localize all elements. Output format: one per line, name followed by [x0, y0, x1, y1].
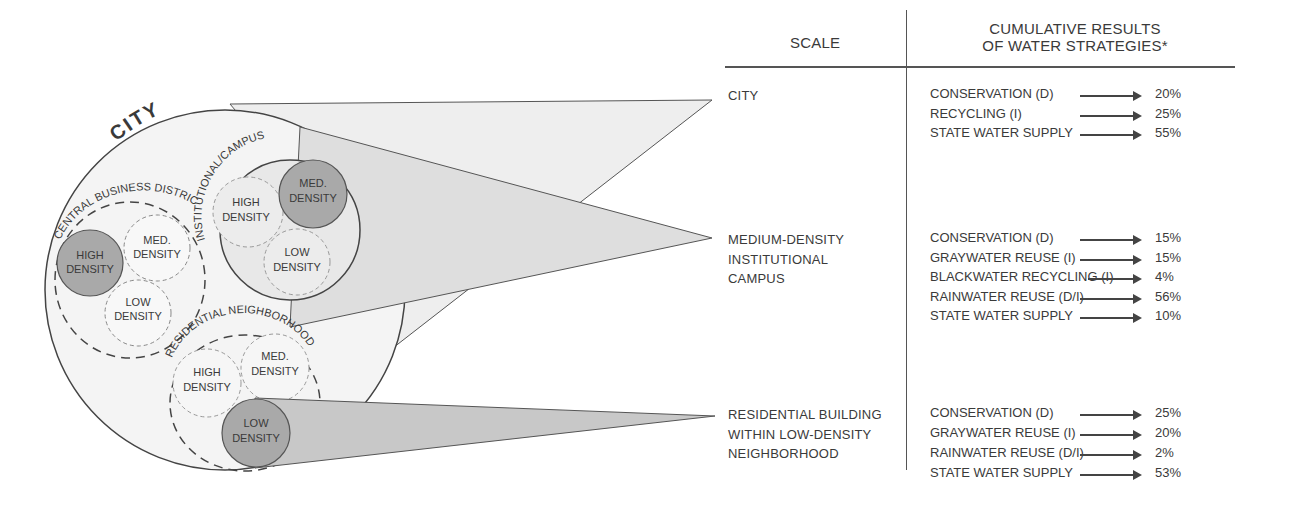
svg-text:DENSITY: DENSITY: [66, 263, 114, 275]
strategy-value: 4%: [1155, 269, 1174, 284]
strategy-name: CONSERVATION (D): [930, 86, 1054, 101]
results-header-line2: OF WATER STRATEGIES*: [970, 37, 1180, 54]
strategy-row: GRAYWATER REUSE (I) 20%: [930, 425, 1260, 445]
strategy-row: BLACKWATER RECYCLING (I) 4%: [930, 269, 1260, 289]
scale-label-residential: RESIDENTIAL BUILDING WITHIN LOW-DENSITY …: [728, 405, 882, 464]
svg-text:LOW: LOW: [243, 417, 269, 429]
strategy-row: RAINWATER REUSE (D/I) 2%: [930, 445, 1260, 465]
svg-text:DENSITY: DENSITY: [232, 432, 280, 444]
strategy-value: 55%: [1155, 125, 1181, 140]
strategy-row: STATE WATER SUPPLY 53%: [930, 465, 1260, 485]
svg-text:MED.: MED.: [143, 234, 171, 246]
strategy-value: 25%: [1155, 405, 1181, 420]
residential-cone: [255, 398, 715, 468]
header-rule: [725, 66, 1235, 68]
svg-text:HIGH: HIGH: [193, 366, 221, 378]
strategy-value: 53%: [1155, 465, 1181, 480]
scale-label-city: CITY: [728, 86, 758, 106]
strategy-row: CONSERVATION (D) 20%: [930, 86, 1260, 106]
strategy-row: GRAYWATER REUSE (I) 15%: [930, 250, 1260, 270]
strategy-row: STATE WATER SUPPLY 55%: [930, 125, 1260, 145]
strategy-value: 25%: [1155, 106, 1181, 121]
strategy-name: STATE WATER SUPPLY: [930, 308, 1073, 323]
arrow-icon: [1080, 434, 1140, 436]
arrow-icon: [1080, 298, 1140, 300]
arrow-icon: [1080, 115, 1140, 117]
svg-text:DENSITY: DENSITY: [251, 365, 299, 377]
strategy-name: CONSERVATION (D): [930, 230, 1054, 245]
strategy-row: RECYCLING (I) 25%: [930, 106, 1260, 126]
arrow-icon: [1088, 278, 1140, 280]
strategy-name: STATE WATER SUPPLY: [930, 125, 1073, 140]
scale-header: SCALE: [790, 34, 840, 51]
strategy-row: RAINWATER REUSE (D/I) 56%: [930, 289, 1260, 309]
arrow-icon: [1080, 474, 1140, 476]
strategy-value: 20%: [1155, 425, 1181, 440]
results-header-line1: CUMULATIVE RESULTS: [970, 20, 1180, 37]
svg-text:LOW: LOW: [125, 296, 151, 308]
strategy-name: RAINWATER REUSE (D/I): [930, 289, 1084, 304]
strategy-name: RAINWATER REUSE (D/I): [930, 445, 1084, 460]
strategy-value: 56%: [1155, 289, 1181, 304]
strategy-name: CONSERVATION (D): [930, 405, 1054, 420]
strategy-name: STATE WATER SUPPLY: [930, 465, 1073, 480]
arrow-icon: [1080, 95, 1140, 97]
strategy-name: BLACKWATER RECYCLING (I): [930, 269, 1113, 284]
arrow-icon: [1080, 134, 1140, 136]
scale-label-campus: MEDIUM-DENSITY INSTITUTIONAL CAMPUS: [728, 230, 844, 289]
strategy-name: RECYCLING (I): [930, 106, 1022, 121]
strategy-row: CONSERVATION (D) 25%: [930, 405, 1260, 425]
svg-text:DENSITY: DENSITY: [183, 381, 231, 393]
svg-text:DENSITY: DENSITY: [289, 192, 337, 204]
strategy-row: CONSERVATION (D) 15%: [930, 230, 1260, 250]
arrow-icon: [1080, 259, 1140, 261]
svg-text:MED.: MED.: [261, 350, 289, 362]
svg-text:DENSITY: DENSITY: [273, 261, 321, 273]
strategy-name: GRAYWATER REUSE (I): [930, 250, 1076, 265]
strategy-value: 15%: [1155, 230, 1181, 245]
strategy-value: 2%: [1155, 445, 1174, 460]
strategy-value: 20%: [1155, 86, 1181, 101]
strategy-row: STATE WATER SUPPLY 10%: [930, 308, 1260, 328]
arrow-icon: [1080, 239, 1140, 241]
results-header: CUMULATIVE RESULTS OF WATER STRATEGIES*: [970, 20, 1180, 54]
strategy-name: GRAYWATER REUSE (I): [930, 425, 1076, 440]
arrow-icon: [1080, 317, 1140, 319]
svg-text:DENSITY: DENSITY: [133, 248, 181, 260]
svg-text:LOW: LOW: [284, 246, 310, 258]
svg-text:DENSITY: DENSITY: [222, 211, 270, 223]
arrow-icon: [1080, 414, 1140, 416]
svg-text:HIGH: HIGH: [232, 196, 260, 208]
svg-text:HIGH: HIGH: [76, 249, 104, 261]
column-divider: [906, 10, 907, 470]
strategy-value: 15%: [1155, 250, 1181, 265]
arrow-icon: [1080, 454, 1140, 456]
svg-text:DENSITY: DENSITY: [114, 310, 162, 322]
svg-text:MED.: MED.: [299, 177, 327, 189]
strategy-value: 10%: [1155, 308, 1181, 323]
